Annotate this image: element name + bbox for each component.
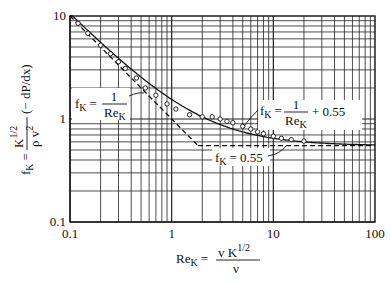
data-point xyxy=(279,136,283,140)
y-tick-label: 10 xyxy=(53,8,66,23)
y-tick-label: 0.1 xyxy=(50,214,66,229)
data-point xyxy=(154,93,158,97)
data-point xyxy=(174,107,178,111)
svg-text:1: 1 xyxy=(293,97,300,112)
data-point xyxy=(225,119,229,123)
data-point xyxy=(210,115,214,119)
data-point xyxy=(98,43,102,47)
data-point xyxy=(302,139,306,143)
annotation-fk-combined: fK= 1 ReK + 0.55 xyxy=(244,97,362,130)
data-point xyxy=(241,124,245,128)
data-point xyxy=(76,21,80,25)
data-point xyxy=(165,102,169,106)
friction-factor-chart: 0.11101000.1110 fK= 1 ReK fK= 1 ReK + 0.… xyxy=(0,0,391,282)
svg-text:(− dP/dx): (− dP/dx) xyxy=(18,64,33,114)
data-point xyxy=(255,130,259,134)
svg-text:ReK=: ReK= xyxy=(176,251,208,268)
data-point xyxy=(108,52,112,56)
y-axis-label: fK= K1/2 ρ v2 (− dP/dx) xyxy=(8,64,42,175)
svg-text:v K1/2: v K1/2 xyxy=(218,242,250,260)
x-axis-label: ReK= v K1/2 ν xyxy=(176,242,260,276)
svg-text:ρ v2: ρ v2 xyxy=(24,126,42,147)
x-tick-label: 100 xyxy=(365,226,385,241)
data-point xyxy=(86,31,90,35)
x-tick-label: 1 xyxy=(168,226,175,241)
data-point xyxy=(143,86,147,90)
data-point xyxy=(116,60,120,64)
annotation-fk-constant: fK=0.55 xyxy=(212,146,286,167)
data-point xyxy=(134,76,138,80)
data-point xyxy=(271,134,275,138)
annotation-fk-inverse: fK= 1 ReK xyxy=(72,88,144,122)
svg-text:+ 0.55: + 0.55 xyxy=(312,104,345,119)
x-tick-label: 10 xyxy=(267,226,280,241)
data-point xyxy=(123,66,127,70)
svg-text:ν: ν xyxy=(233,261,239,276)
svg-text:1: 1 xyxy=(111,89,118,104)
y-tick-label: 1 xyxy=(60,111,67,126)
data-point xyxy=(218,117,222,121)
data-point xyxy=(231,121,235,125)
data-point xyxy=(187,113,191,117)
data-point xyxy=(289,137,293,141)
data-point xyxy=(249,127,253,131)
svg-text:fK=: fK= xyxy=(18,153,35,175)
data-point xyxy=(261,131,265,135)
data-point xyxy=(200,115,204,119)
